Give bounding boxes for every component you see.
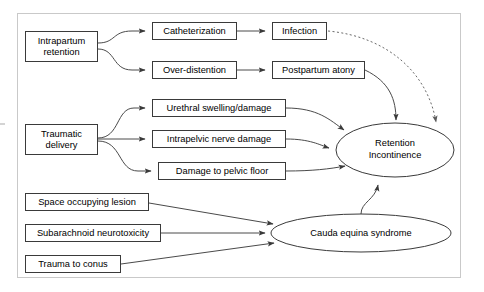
edge-damage-to-pelvic-floor-to-retention-incontinence xyxy=(286,166,345,171)
edge-intrapartum-retention-to-catheterization xyxy=(98,31,145,43)
node-infection[interactable]: Infection xyxy=(273,23,327,40)
node-traumatic-delivery-label-line2: delivery xyxy=(45,140,77,150)
node-infection-label: Infection xyxy=(282,26,317,36)
edge-postpartum-atony-to-retention-incontinence xyxy=(365,70,396,120)
edge-cauda-equina-syndrome-to-retention-incontinence xyxy=(361,185,378,214)
node-intrapartum-retention[interactable]: Intrapartum retention xyxy=(26,32,98,62)
node-over-distention-label: Over-distention xyxy=(163,65,226,75)
node-urethral-swelling-damage[interactable]: Urethral swelling/damage xyxy=(153,100,286,117)
edge-trauma-to-conus-to-cauda-equina-syndrome xyxy=(121,243,274,264)
node-intrapelvic-nerve-damage-label: Intrapelvic nerve damage xyxy=(167,134,271,144)
node-cauda-equina-syndrome[interactable]: Cauda equina syndrome xyxy=(271,214,451,252)
node-catheterization[interactable]: Catheterization xyxy=(153,23,237,40)
node-damage-to-pelvic-floor[interactable]: Damage to pelvic floor xyxy=(159,163,286,180)
node-over-distention[interactable]: Over-distention xyxy=(153,62,237,79)
node-retention-incontinence-label-line1: Retention xyxy=(375,138,415,148)
node-subarachnoid-neurotoxicity[interactable]: Subarachnoid neurotoxicity xyxy=(26,225,161,242)
diagram-canvas: Intrapartum retention Catheterization In… xyxy=(0,0,484,292)
node-retention-incontinence[interactable]: Retention Incontinence xyxy=(336,123,454,177)
node-cauda-equina-syndrome-label: Cauda equina syndrome xyxy=(310,228,411,238)
edge-intrapartum-retention-to-over-distention xyxy=(98,49,145,70)
node-traumatic-delivery[interactable]: Traumatic delivery xyxy=(26,125,98,155)
node-group: Intrapartum retention Catheterization In… xyxy=(26,23,455,273)
flowchart-svg: Intrapartum retention Catheterization In… xyxy=(0,0,484,292)
node-space-occupying-lesion[interactable]: Space occupying lesion xyxy=(26,194,149,211)
node-postpartum-atony-label: Postpartum atony xyxy=(282,65,355,75)
node-intrapartum-retention-label-line1: Intrapartum xyxy=(38,36,86,46)
node-intrapartum-retention-label-line2: retention xyxy=(43,47,79,57)
edge-space-occupying-lesion-to-cauda-equina-syndrome xyxy=(149,203,273,224)
node-retention-incontinence-label-line2: Incontinence xyxy=(369,150,422,160)
node-subarachnoid-neurotoxicity-label: Subarachnoid neurotoxicity xyxy=(37,228,149,238)
node-damage-to-pelvic-floor-label: Damage to pelvic floor xyxy=(176,166,269,176)
edge-urethral-swelling-damage-to-retention-incontinence xyxy=(286,108,344,130)
node-catheterization-label: Catheterization xyxy=(163,26,226,36)
node-intrapelvic-nerve-damage[interactable]: Intrapelvic nerve damage xyxy=(153,131,286,148)
node-trauma-to-conus-label: Trauma to conus xyxy=(38,259,108,269)
node-urethral-swelling-damage-label: Urethral swelling/damage xyxy=(167,103,272,113)
edge-traumatic-delivery-to-urethral-swelling-damage xyxy=(98,108,145,138)
node-space-occupying-lesion-label: Space occupying lesion xyxy=(38,197,136,207)
edge-traumatic-delivery-to-damage-to-pelvic-floor xyxy=(98,141,151,171)
node-postpartum-atony[interactable]: Postpartum atony xyxy=(273,62,365,79)
node-traumatic-delivery-label-line1: Traumatic xyxy=(41,129,82,139)
edge-intrapelvic-nerve-damage-to-retention-incontinence xyxy=(286,139,329,148)
node-trauma-to-conus[interactable]: Trauma to conus xyxy=(26,256,121,273)
